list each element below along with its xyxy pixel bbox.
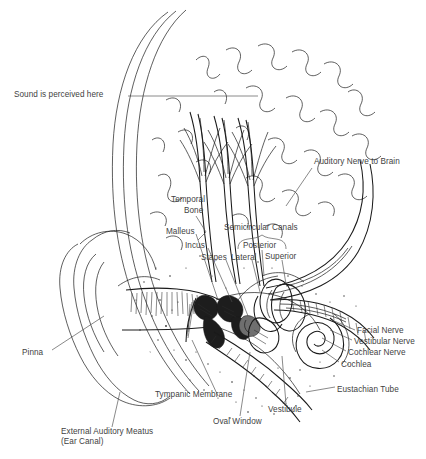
leader-external-meatus: [112, 392, 120, 427]
label-lateral: Lateral: [231, 253, 256, 264]
label-external-auditory-meatus-line1: External Auditory Meatus: [61, 427, 153, 438]
label-posterior: Posterior: [243, 241, 276, 252]
leader-facial-nerve: [332, 320, 355, 330]
inner-ear-housing: [214, 273, 320, 394]
label-superior: Superior: [265, 252, 296, 263]
label-vestibule: Vestibule: [268, 405, 302, 416]
label-facial-nerve: Facial Nerve: [357, 326, 404, 337]
leader-pinna: [52, 316, 104, 350]
leader-auditory-nerve: [286, 168, 312, 206]
label-external-auditory-meatus-line2: (Ear Canal): [61, 437, 103, 448]
posterior-canal: [272, 284, 306, 331]
temporal-bone-stipple: [105, 51, 169, 368]
leader-cochlea: [322, 350, 339, 362]
label-temporal-bone-line1: Temporal: [171, 195, 205, 206]
label-temporal-bone-line2: Bone: [184, 206, 203, 217]
label-stapes: Stapes: [201, 253, 227, 264]
label-tympanic-membrane: Tympanic Membrane: [155, 390, 232, 401]
label-oval-window: Oval Window: [213, 417, 262, 428]
malleus-handle: [203, 316, 224, 348]
leader-eustachian-tube: [306, 387, 335, 392]
label-cochlear-nerve: Cochlear Nerve: [348, 348, 406, 359]
label-semicircular-canals: Semicircular Canals: [224, 223, 298, 234]
label-malleus: Malleus: [166, 227, 195, 238]
label-incus: Incus: [185, 241, 205, 252]
label-auditory-nerve-to-brain: Auditory Nerve to Brain: [314, 157, 400, 168]
label-pinna: Pinna: [22, 348, 43, 359]
label-sound-perceived: Sound is perceived here: [14, 90, 103, 101]
pinna: [60, 230, 170, 405]
leader-oval-window: [240, 352, 250, 416]
ear-anatomy-diagram: Sound is perceived here Auditory Nerve t…: [0, 0, 426, 459]
label-cochlea: Cochlea: [341, 360, 371, 371]
label-eustachian-tube: Eustachian Tube: [337, 385, 399, 396]
label-vestibular-nerve: Vestibular Nerve: [354, 337, 415, 348]
